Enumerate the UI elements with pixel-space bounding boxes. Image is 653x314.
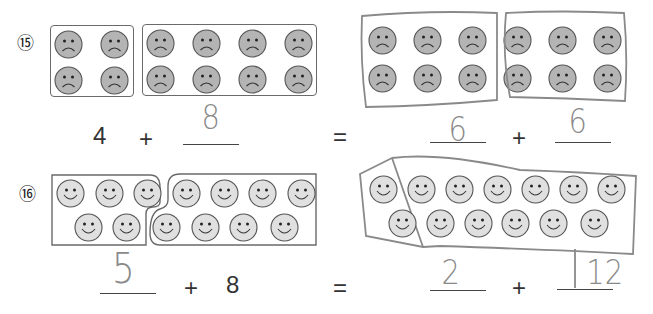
smile-face-icon — [152, 213, 181, 242]
hand-drawn-grouping-lines — [0, 0, 653, 314]
smile-face-icon — [501, 209, 530, 238]
smile-face-icon — [56, 179, 85, 208]
answer-blank-15c[interactable] — [555, 142, 611, 143]
smile-face-icon — [388, 209, 417, 238]
smile-face-icon — [133, 179, 162, 208]
plus-sign: + — [512, 126, 526, 150]
smile-face-icon — [112, 213, 141, 242]
smile-face-icon — [74, 213, 103, 242]
plus-sign: + — [512, 276, 526, 300]
smile-face-icon — [483, 175, 512, 204]
plus-sign: + — [184, 276, 198, 300]
smile-face-icon — [426, 209, 455, 238]
smile-face-icon — [210, 179, 239, 208]
smile-face-icon — [95, 179, 124, 208]
plus-sign: + — [139, 127, 153, 151]
addend-4: 4 — [93, 124, 106, 148]
smile-face-icon — [521, 175, 550, 204]
smile-face-icon — [539, 209, 568, 238]
smile-face-icon — [172, 179, 201, 208]
smile-face-icon — [445, 175, 474, 204]
smile-face-icon — [248, 179, 277, 208]
smile-face-icon — [464, 209, 493, 238]
handwritten-answer-6b: 6 — [569, 104, 587, 138]
handwritten-answer-8: 8 — [202, 100, 220, 134]
problem-number-16: ⑯ — [19, 180, 36, 205]
smile-face-icon — [369, 175, 398, 204]
smile-face-icon — [270, 213, 299, 242]
equals-sign: = — [333, 276, 347, 300]
smile-face-icon — [559, 175, 588, 204]
answer-blank-16a[interactable] — [100, 293, 156, 294]
addend-8: 8 — [226, 273, 239, 297]
smile-face-icon — [229, 213, 258, 242]
handwritten-answer-2: 2 — [442, 255, 460, 289]
handwritten-answer-5: 5 — [112, 248, 135, 290]
smile-face-icon — [580, 209, 609, 238]
smile-face-icon — [287, 179, 316, 208]
smile-face-icon — [191, 213, 220, 242]
smile-face-icon — [597, 175, 626, 204]
smile-face-icon — [407, 175, 436, 204]
handwritten-answer-6a: 6 — [449, 112, 467, 146]
equals-sign: = — [333, 125, 347, 149]
answer-blank-15a[interactable] — [183, 144, 239, 145]
handwritten-answer-12: 12 — [586, 255, 623, 289]
